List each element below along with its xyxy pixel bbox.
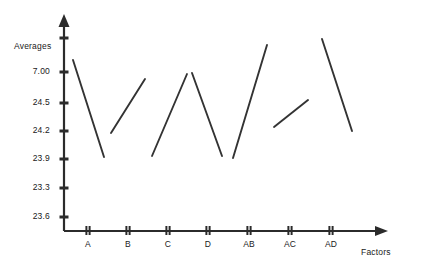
main-effects-chart: Averages Factors 7.0024.524.223.923.323.… (0, 0, 430, 269)
tick-marks-group (60, 38, 333, 235)
x-tick-label-AC: AC (275, 239, 305, 249)
factor-line-AC (274, 100, 308, 127)
x-tick-label-B: B (113, 239, 143, 249)
series-lines-group (73, 39, 352, 158)
factor-line-B (111, 79, 145, 133)
x-tick-label-AD: AD (316, 239, 346, 249)
x-tick-label-C: C (153, 239, 183, 249)
y-tick-label-1: 24.5 (10, 97, 50, 107)
x-axis-title: Factors (361, 247, 391, 257)
y-tick-label-3: 23.9 (10, 153, 50, 163)
x-axis-arrowhead (375, 226, 388, 236)
axes-group (59, 14, 389, 236)
x-tick-label-A: A (73, 239, 103, 249)
y-axis-arrowhead (59, 14, 70, 27)
x-tick-label-D: D (193, 239, 223, 249)
y-axis-title: Averages (14, 41, 51, 51)
factor-line-D (192, 73, 222, 156)
y-tick-label-0: 7.00 (10, 66, 50, 76)
factor-line-AB (233, 45, 267, 158)
y-tick-label-2: 24.2 (10, 125, 50, 135)
y-tick-label-5: 23.6 (10, 211, 50, 221)
x-tick-label-AB: AB (234, 239, 264, 249)
chart-plot-area (0, 0, 430, 269)
factor-line-C (152, 74, 187, 156)
factor-line-AD (322, 39, 352, 131)
factor-line-A (73, 60, 104, 157)
y-tick-label-4: 23.3 (10, 182, 50, 192)
